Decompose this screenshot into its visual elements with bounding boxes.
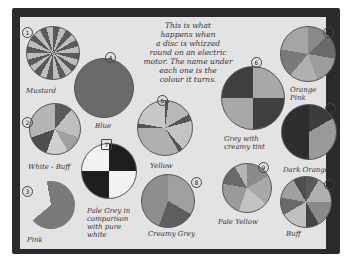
disc-number: 4	[105, 52, 116, 63]
disc-label: Dark Orange	[283, 166, 329, 174]
disc-5-yellow	[137, 100, 193, 156]
disc-label: Orange Pink	[290, 86, 326, 102]
disc-4-blue	[74, 58, 134, 118]
disc-number: 3	[22, 186, 33, 197]
disc-number: 5	[157, 95, 168, 106]
description-line: a disc is whizzed	[138, 39, 238, 48]
disc-7-pale-grey	[81, 143, 137, 199]
disc-label: Mustard	[26, 87, 56, 95]
disc-number: 8	[191, 177, 202, 188]
disc-number: 11	[325, 103, 336, 114]
disc-number: 6	[251, 57, 262, 68]
disc-6-grey-creamy	[221, 66, 285, 130]
disc-label: Creamy Grey	[148, 230, 195, 238]
disc-1-mustard	[26, 26, 80, 80]
disc-number: 12	[324, 179, 335, 190]
disc-number: 7	[101, 139, 112, 150]
disc-label: Pink	[27, 236, 43, 244]
disc-label: Pale Yellow	[218, 218, 258, 226]
disc-number: 10	[323, 27, 334, 38]
description-line: colour it turns.	[138, 75, 238, 84]
description-line: each one is the	[138, 66, 238, 75]
disc-label: Pale Grey in comparison with pure white	[87, 207, 137, 239]
disc-8-creamy-grey	[141, 174, 195, 228]
description-line: happens when	[138, 30, 238, 39]
poster-description: This is what happens when a disc is whiz…	[138, 21, 238, 84]
disc-number: 1	[22, 27, 33, 38]
description-line: This is what	[138, 21, 238, 30]
disc-label: Buff	[286, 230, 301, 238]
disc-number: 9	[258, 162, 269, 173]
disc-label: White - Buff	[28, 163, 70, 171]
disc-label: Blue	[95, 122, 111, 130]
description-line: motor. The name under	[138, 57, 238, 66]
disc-label: Yellow	[150, 162, 173, 170]
disc-number: 2	[22, 117, 33, 128]
description-line: round on an electric	[138, 48, 238, 57]
disc-2-white-buff	[29, 103, 81, 155]
disc-label: Grey with creamy tint	[224, 135, 274, 151]
